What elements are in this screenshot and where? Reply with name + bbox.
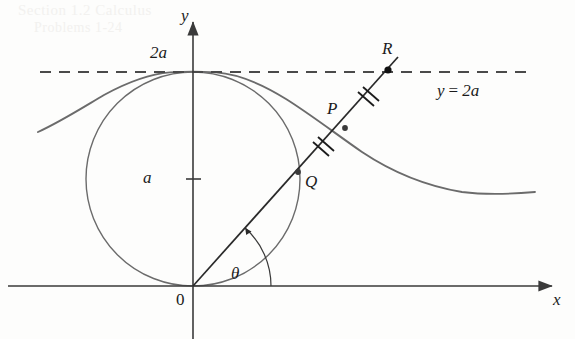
angle-label-theta: θ <box>231 265 239 282</box>
point-label-Q: Q <box>305 173 317 190</box>
asymptote-label: y=2a <box>437 82 479 99</box>
asymptote-label-equals: = <box>449 81 459 100</box>
y-tick-label-2a: 2a <box>150 44 167 61</box>
point-R <box>384 66 391 73</box>
point-Q <box>295 169 301 175</box>
y-axis-label: y <box>181 7 189 24</box>
origin-label: 0 <box>176 291 185 308</box>
figure-container: Section 1.2 Calculus Problems 1-24 <box>0 0 575 339</box>
x-axis-label: x <box>553 291 561 308</box>
point-label-R: R <box>382 40 392 57</box>
point-P <box>342 125 348 131</box>
asymptote-label-lhs: y <box>437 81 445 100</box>
asymptote-label-rhs: 2a <box>462 81 479 100</box>
geometry-diagram <box>0 0 575 339</box>
point-label-P: P <box>327 100 337 117</box>
y-tick-label-a: a <box>143 169 152 186</box>
